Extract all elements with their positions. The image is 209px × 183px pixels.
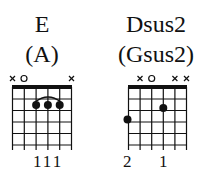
open-string-icon — [21, 76, 27, 82]
chord-1-string-markers — [10, 76, 74, 82]
mute-icon — [184, 76, 189, 81]
mute-icon — [172, 76, 177, 81]
chord-2-dots — [124, 104, 168, 124]
chord-2-grid — [129, 87, 187, 150]
mute-icon — [69, 76, 74, 81]
open-string-icon — [149, 76, 155, 82]
finger-dot — [32, 101, 40, 109]
mute-icon — [138, 76, 143, 81]
finger-dot — [159, 104, 167, 112]
chord-diagrams — [0, 0, 209, 183]
mute-icon — [10, 76, 15, 81]
finger-dot — [44, 101, 52, 109]
chord-1-grid — [13, 87, 72, 150]
chord-2-nut — [128, 85, 187, 89]
chord-2-string-markers — [138, 76, 190, 82]
finger-dot — [56, 101, 64, 109]
chord-2-finger-label-2: 2 — [123, 153, 132, 170]
chord-1-nut — [12, 85, 72, 89]
chord-2-finger-label-1: 1 — [159, 153, 168, 170]
chord-1-finger-labels: 111 — [33, 153, 63, 170]
chord-1-dots — [32, 101, 64, 109]
finger-dot — [124, 116, 132, 124]
